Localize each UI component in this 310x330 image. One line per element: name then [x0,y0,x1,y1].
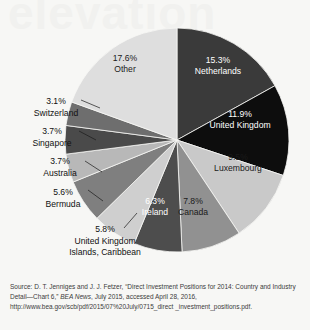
slice-label-other: 17.6%Other [113,53,138,74]
source-citation: Source: D. T. Jenniges and J. J. Fetzer,… [10,282,302,312]
source-publication: BEA News [60,293,91,300]
outer-label-switzerland: 3.1%Switzerland [34,96,79,118]
pie-chart-figure: elevation 15.3%Netherlands11.9%United Ki… [0,0,310,330]
investment-positions-pie-chart: 15.3%Netherlands11.9%United Kingdom9.5%L… [0,0,310,280]
pie-slices-group [65,28,289,252]
slice-label-ireland: 6.3%Ireland [142,196,168,217]
outer-label-bermuda: 5.6%Bermuda [46,187,81,209]
